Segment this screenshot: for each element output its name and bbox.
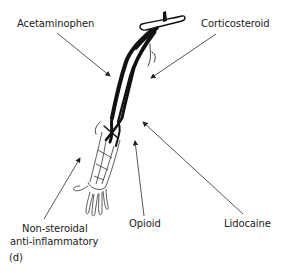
hand-outline — [73, 186, 108, 216]
upper-arm-nerves — [112, 28, 157, 122]
label-corticosteroid: Corticosteroid — [201, 18, 270, 30]
arrow-nsaid — [44, 158, 80, 219]
label-nsaid-line1: Non-steroidal — [22, 223, 88, 235]
arrow-acetaminophen — [57, 33, 110, 76]
label-opioid: Opioid — [129, 218, 161, 230]
label-arrows — [44, 33, 243, 219]
arrow-corticosteroid — [151, 34, 216, 78]
elbow-nerves — [95, 118, 122, 146]
label-lidocaine: Lidocaine — [224, 218, 271, 230]
panel-label: (d) — [9, 252, 23, 264]
arrow-lidocaine — [143, 122, 243, 214]
label-nsaid-line2: anti-inflammatory — [10, 236, 98, 248]
arrow-opioid — [135, 141, 144, 216]
forearm-outline — [88, 132, 120, 189]
label-acetaminophen: Acetaminophen — [17, 18, 94, 30]
diagram-figure: Acetaminophen Corticosteroid Non-steroid… — [0, 0, 286, 273]
shoulder-outline — [140, 11, 185, 30]
